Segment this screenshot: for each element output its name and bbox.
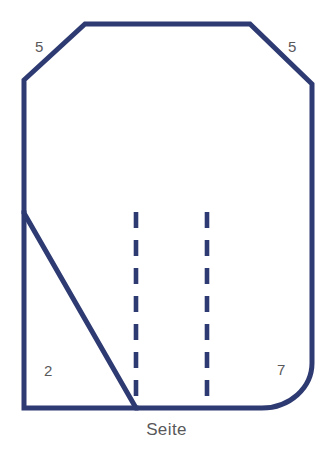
panel-diagram: 5 5 2 7 Seite — [0, 0, 333, 458]
dimension-label-top-left: 5 — [35, 38, 43, 55]
dimension-label-top-right: 5 — [288, 38, 296, 55]
figure-caption: Seite — [0, 420, 333, 440]
dimension-label-bottom-left: 2 — [44, 362, 52, 379]
panel-outline-svg: 5 5 2 7 — [0, 0, 333, 458]
panel-outline-path — [24, 24, 312, 408]
dimension-label-bottom-right: 7 — [277, 361, 285, 378]
